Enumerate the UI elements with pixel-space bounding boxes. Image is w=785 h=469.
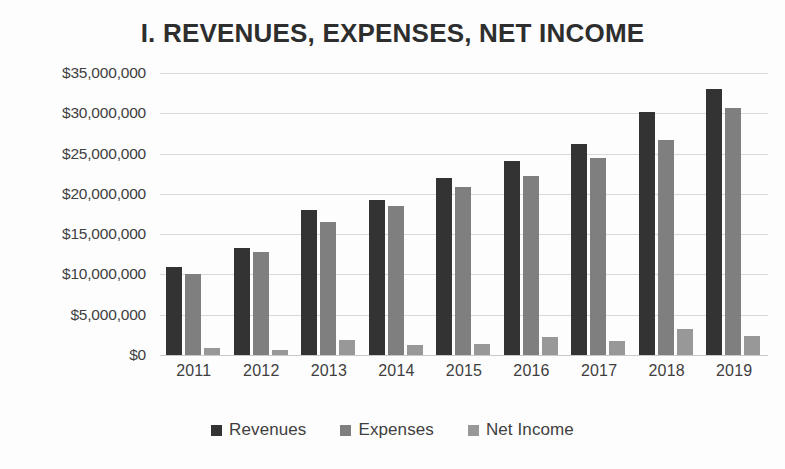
bar-expenses-2011[interactable]: [185, 274, 201, 355]
legend-swatch-icon: [468, 425, 479, 436]
bar-net-income-2011[interactable]: [204, 348, 220, 355]
bar-revenues-2017[interactable]: [571, 144, 587, 355]
legend-label: Revenues: [229, 420, 306, 440]
bar-net-income-2016[interactable]: [542, 337, 558, 355]
x-axis: 201120122013201420152016201720182019: [160, 362, 768, 390]
bar-net-income-2013[interactable]: [339, 340, 355, 355]
bar-revenues-2014[interactable]: [369, 200, 385, 356]
bar-expenses-2018[interactable]: [658, 140, 674, 355]
bar-group: [228, 73, 296, 355]
legend-label: Expenses: [358, 420, 433, 440]
bar-group: [700, 73, 768, 355]
bar-revenues-2016[interactable]: [504, 161, 520, 355]
y-axis-tick-label: $10,000,000: [62, 265, 146, 283]
bar-revenues-2011[interactable]: [166, 267, 182, 355]
x-axis-tick-label-2014: 2014: [363, 362, 431, 380]
legend-swatch-icon: [340, 425, 351, 436]
bar-net-income-2015[interactable]: [474, 344, 490, 355]
bar-revenues-2015[interactable]: [436, 178, 452, 355]
x-axis-tick-label-2011: 2011: [160, 362, 228, 380]
legend-swatch-icon: [211, 425, 222, 436]
bar-group: [565, 73, 633, 355]
bar-expenses-2012[interactable]: [253, 252, 269, 355]
chart-title: I. REVENUES, EXPENSES, NET INCOME: [0, 18, 785, 49]
legend-item-revenues[interactable]: Revenues: [211, 420, 306, 440]
bar-expenses-2016[interactable]: [523, 176, 539, 355]
y-axis-tick-label: $35,000,000: [62, 64, 146, 82]
bar-expenses-2014[interactable]: [388, 206, 404, 355]
chart-legend: RevenuesExpensesNet Income: [0, 420, 785, 440]
bar-expenses-2015[interactable]: [455, 187, 471, 355]
bar-revenues-2018[interactable]: [639, 112, 655, 355]
bar-expenses-2019[interactable]: [725, 108, 741, 355]
y-axis-tick-label: $20,000,000: [62, 185, 146, 203]
legend-label: Net Income: [486, 420, 574, 440]
bar-net-income-2017[interactable]: [609, 341, 625, 355]
bar-group: [295, 73, 363, 355]
bar-group: [430, 73, 498, 355]
bar-expenses-2013[interactable]: [320, 222, 336, 355]
bar-group: [498, 73, 566, 355]
bar-net-income-2012[interactable]: [272, 350, 288, 355]
bar-net-income-2014[interactable]: [407, 345, 423, 355]
y-axis-tick-label: $25,000,000: [62, 145, 146, 163]
y-axis-tick-label: $30,000,000: [62, 104, 146, 122]
y-axis-tick-label: $5,000,000: [70, 306, 146, 324]
x-axis-tick-label-2017: 2017: [565, 362, 633, 380]
bars-layer: [160, 73, 768, 355]
bar-net-income-2019[interactable]: [744, 336, 760, 355]
bar-expenses-2017[interactable]: [590, 158, 606, 355]
bar-group: [363, 73, 431, 355]
bar-net-income-2018[interactable]: [677, 329, 693, 355]
x-axis-tick-label-2016: 2016: [498, 362, 566, 380]
chart-container: I. REVENUES, EXPENSES, NET INCOME $0$5,0…: [0, 0, 785, 469]
bar-revenues-2019[interactable]: [706, 89, 722, 355]
bar-revenues-2013[interactable]: [301, 210, 317, 355]
bar-revenues-2012[interactable]: [234, 248, 250, 355]
x-axis-tick-label-2015: 2015: [430, 362, 498, 380]
x-axis-tick-label-2012: 2012: [228, 362, 296, 380]
bar-group: [160, 73, 228, 355]
y-axis: $0$5,000,000$10,000,000$15,000,000$20,00…: [12, 73, 154, 355]
y-axis-tick-label: $0: [129, 346, 146, 364]
bar-group: [633, 73, 701, 355]
y-axis-tick-label: $15,000,000: [62, 225, 146, 243]
legend-item-net-income[interactable]: Net Income: [468, 420, 574, 440]
legend-item-expenses[interactable]: Expenses: [340, 420, 433, 440]
x-axis-tick-label-2019: 2019: [700, 362, 768, 380]
x-axis-tick-label-2018: 2018: [633, 362, 701, 380]
gridline: [160, 355, 768, 356]
x-axis-tick-label-2013: 2013: [295, 362, 363, 380]
